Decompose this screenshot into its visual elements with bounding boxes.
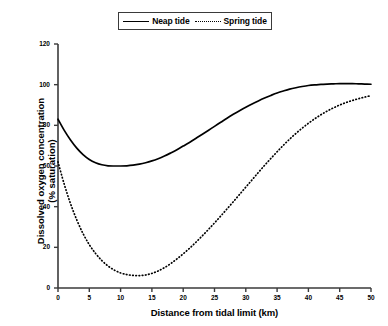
x-tick-label: 35 [267,295,287,302]
x-tick-label: 30 [236,295,256,302]
plot-area [0,0,388,326]
chart-figure: Neap tide Spring tide 020406080100120 05… [0,0,388,326]
y-axis-title-line2: (% saturation) [46,46,57,296]
x-tick-label: 45 [330,295,350,302]
series-line-spring-tide [58,96,371,276]
x-axis-title: Distance from tidal limit (km) [58,307,371,318]
y-axis-title: Dissolved oxygen concentration (% satura… [35,46,57,296]
y-axis-title-line1: Dissolved oxygen concentration [35,46,46,296]
x-tick-label: 40 [298,295,318,302]
x-tick-label: 20 [173,295,193,302]
series-line-neap-tide [58,84,371,166]
x-tick-label: 50 [361,295,381,302]
x-tick-label: 10 [111,295,131,302]
x-tick-label: 25 [205,295,225,302]
x-tick-label: 15 [142,295,162,302]
x-tick-label: 5 [79,295,99,302]
